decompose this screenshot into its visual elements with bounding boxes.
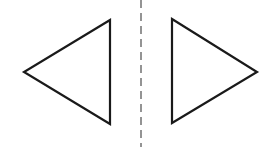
left-triangle — [24, 20, 110, 124]
right-triangle — [172, 19, 257, 123]
symmetry-diagram — [0, 0, 271, 147]
